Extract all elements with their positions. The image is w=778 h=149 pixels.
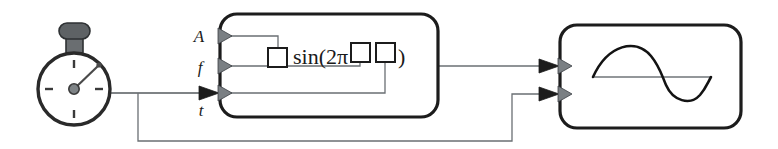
- stopwatch-hand-tip: [96, 62, 101, 67]
- waveform-display-block[interactable]: [560, 25, 741, 128]
- display-time-arrowhead: [539, 87, 559, 101]
- block-diagram-canvas: A f t sin(2π ): [0, 0, 778, 149]
- input-amplitude-label: A: [193, 27, 205, 46]
- timer-wire-arrowhead: [199, 86, 219, 100]
- formula-close-paren-text: ): [398, 44, 405, 69]
- formula-placeholder-time[interactable]: [376, 43, 395, 62]
- stopwatch-hub: [69, 84, 79, 94]
- stopwatch-crown[interactable]: [59, 23, 90, 39]
- stopwatch-icon[interactable]: [38, 23, 110, 125]
- input-frequency-label: f: [198, 58, 205, 77]
- formula-placeholder-amplitude[interactable]: [268, 48, 287, 67]
- diagram-svg: A f t sin(2π ): [0, 0, 778, 149]
- display-signal-arrowhead: [539, 59, 559, 73]
- formula-function-text: sin(2π: [293, 44, 348, 69]
- formula-placeholder-frequency[interactable]: [351, 43, 370, 62]
- input-time-label: t: [199, 101, 205, 120]
